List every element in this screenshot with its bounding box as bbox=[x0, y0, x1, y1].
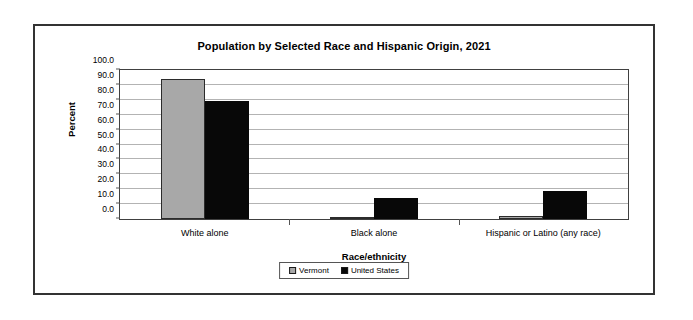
bar-united-states[interactable] bbox=[543, 191, 587, 219]
y-tick-label: 80.0 bbox=[97, 85, 114, 95]
x-category-label: Black alone bbox=[351, 228, 398, 238]
legend-label: United States bbox=[351, 266, 399, 275]
x-separator-tick bbox=[459, 219, 460, 225]
y-tick-label: 20.0 bbox=[97, 174, 114, 184]
chart-page: Population by Selected Race and Hispanic… bbox=[0, 0, 693, 320]
y-tick-label: 70.0 bbox=[97, 100, 114, 110]
y-tick-label: 90.0 bbox=[97, 70, 114, 80]
plot-area: 0.010.020.030.040.050.060.070.080.090.01… bbox=[119, 69, 629, 220]
bar-vermont[interactable] bbox=[330, 217, 374, 219]
legend-label: Vermont bbox=[299, 266, 329, 275]
bar-vermont[interactable] bbox=[161, 79, 205, 219]
y-tick-label: 10.0 bbox=[97, 189, 114, 199]
x-separator-tick bbox=[289, 219, 290, 225]
legend-entry[interactable]: Vermont bbox=[289, 266, 329, 275]
bar-united-states[interactable] bbox=[205, 101, 249, 219]
chart-legend: VermontUnited States bbox=[279, 262, 409, 279]
legend-swatch-icon bbox=[289, 267, 296, 274]
legend-entry[interactable]: United States bbox=[341, 266, 399, 275]
bar-group bbox=[459, 70, 628, 219]
legend-swatch-icon bbox=[341, 267, 348, 274]
bar-group bbox=[289, 70, 458, 219]
y-tick-label: 60.0 bbox=[97, 115, 114, 125]
y-tick-label: 40.0 bbox=[97, 144, 114, 154]
y-tick-label: 50.0 bbox=[97, 130, 114, 140]
y-axis-title: Percent bbox=[66, 80, 77, 160]
bar-vermont[interactable] bbox=[499, 216, 543, 219]
bar-group bbox=[120, 70, 289, 219]
page-title: Population by Selected Race and Hispanic… bbox=[35, 40, 653, 52]
bar-united-states[interactable] bbox=[374, 198, 418, 219]
x-category-label: White alone bbox=[181, 228, 229, 238]
y-tick-label: 30.0 bbox=[97, 159, 114, 169]
y-tick-label: 100.0 bbox=[93, 55, 114, 65]
x-category-label: Hispanic or Latino (any race) bbox=[486, 228, 601, 238]
chart-outer-frame: Population by Selected Race and Hispanic… bbox=[33, 24, 655, 295]
y-tick-label: 0.0 bbox=[102, 204, 114, 214]
x-axis-title: Race/ethnicity bbox=[119, 251, 629, 262]
